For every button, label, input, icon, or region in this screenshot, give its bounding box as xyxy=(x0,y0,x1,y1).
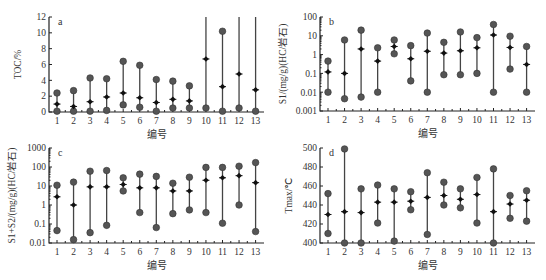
range-item xyxy=(70,179,77,243)
min-marker xyxy=(120,188,127,195)
x-tick-label: 11 xyxy=(489,115,498,125)
x-tick-label: 7 xyxy=(154,247,159,257)
x-tick-label: 1 xyxy=(326,247,331,257)
max-marker xyxy=(252,159,259,166)
range-item xyxy=(440,179,447,208)
range-item xyxy=(103,75,110,113)
y-tick-label: 2 xyxy=(41,91,46,101)
max-marker xyxy=(103,75,110,82)
x-tick-label: 7 xyxy=(425,115,430,125)
x-tick-label: 11 xyxy=(218,247,227,257)
min-marker xyxy=(424,231,431,238)
max-marker xyxy=(236,163,243,170)
max-marker xyxy=(424,169,431,176)
y-axis-label: Tmax/℃ xyxy=(284,178,294,214)
x-tick-label: 13 xyxy=(522,247,532,257)
min-marker xyxy=(170,210,177,217)
max-marker xyxy=(54,90,61,97)
range-item xyxy=(523,43,530,95)
y-tick-label: 460 xyxy=(303,181,318,191)
min-marker xyxy=(358,240,365,247)
range-item xyxy=(219,164,226,226)
min-marker xyxy=(391,238,398,245)
range-item xyxy=(407,42,414,84)
y-axis-label: TOC/% xyxy=(13,50,23,79)
x-tick-label: 5 xyxy=(392,115,397,125)
x-tick-label: 7 xyxy=(154,116,159,126)
range-item xyxy=(236,163,243,208)
y-tick-label: 420 xyxy=(303,219,318,229)
y-axis-label: S1/(mg/g)(HC/岩石) xyxy=(277,24,289,105)
min-marker xyxy=(523,89,530,96)
x-tick-label: 13 xyxy=(522,115,532,125)
max-marker xyxy=(186,174,193,181)
x-tick-label: 6 xyxy=(137,247,142,257)
y-tick-label: 100 xyxy=(32,162,47,172)
range-item xyxy=(341,146,348,247)
x-tick-label: 4 xyxy=(104,247,109,257)
chart-canvas: 02468101212345678910111213编号TOC/%a0.0010… xyxy=(0,0,546,280)
max-marker xyxy=(120,58,127,65)
min-marker xyxy=(186,207,193,214)
min-marker xyxy=(236,202,243,209)
max-marker xyxy=(170,180,177,187)
x-axis-label: 编号 xyxy=(418,259,438,271)
y-tick-label: 500 xyxy=(303,143,318,153)
range-item xyxy=(236,17,243,111)
x-tick-label: 13 xyxy=(251,116,261,126)
range-item xyxy=(424,30,431,96)
min-marker xyxy=(391,51,398,58)
range-item xyxy=(153,76,160,114)
range-item xyxy=(120,58,127,108)
x-tick-label: 5 xyxy=(392,247,397,257)
range-item xyxy=(457,186,464,212)
max-marker xyxy=(219,28,226,35)
min-marker xyxy=(252,228,259,235)
min-marker xyxy=(252,108,259,115)
min-marker xyxy=(507,215,514,222)
max-marker xyxy=(507,192,514,199)
min-marker xyxy=(203,209,210,216)
x-tick-label: 8 xyxy=(170,247,175,257)
min-marker xyxy=(170,105,177,112)
min-marker xyxy=(424,89,431,96)
max-marker xyxy=(219,164,226,171)
range-item xyxy=(169,180,176,217)
panel-a: 02468101212345678910111213编号TOC/%a xyxy=(13,12,264,140)
max-marker xyxy=(523,187,530,194)
range-item xyxy=(186,83,193,112)
max-marker xyxy=(407,42,414,49)
range-item xyxy=(325,58,332,96)
y-tick-label: 10 xyxy=(37,28,47,38)
range-item xyxy=(358,27,365,101)
x-axis-label: 编号 xyxy=(147,259,167,271)
max-marker xyxy=(391,37,398,44)
x-tick-label: 6 xyxy=(408,247,413,257)
x-axis-label: 编号 xyxy=(147,128,167,140)
range-item xyxy=(391,186,398,245)
min-marker xyxy=(87,229,94,236)
x-tick-label: 3 xyxy=(359,247,364,257)
max-marker xyxy=(490,21,497,28)
range-item xyxy=(70,87,77,114)
max-marker xyxy=(120,175,127,182)
range-item xyxy=(424,169,431,237)
x-tick-label: 3 xyxy=(359,115,364,125)
y-tick-label: 0.01 xyxy=(300,88,317,98)
max-marker xyxy=(325,58,332,65)
x-tick-label: 4 xyxy=(104,116,109,126)
x-tick-label: 9 xyxy=(187,247,192,257)
x-tick-label: 10 xyxy=(201,116,211,126)
y-tick-label: 1 xyxy=(312,50,317,60)
y-tick-label: 440 xyxy=(303,200,318,210)
max-marker xyxy=(391,186,398,193)
max-marker xyxy=(407,188,414,195)
range-item xyxy=(358,186,365,247)
max-marker xyxy=(374,44,381,51)
y-tick-label: 0.1 xyxy=(305,69,317,79)
max-marker xyxy=(186,83,193,90)
max-marker xyxy=(341,146,348,153)
x-tick-label: 12 xyxy=(505,115,515,125)
range-item xyxy=(87,168,94,236)
max-marker xyxy=(424,30,431,37)
